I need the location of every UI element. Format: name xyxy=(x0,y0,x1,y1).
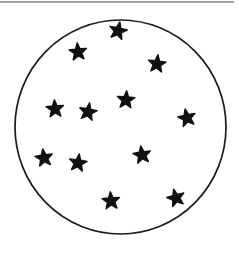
figure-svg xyxy=(0,0,239,253)
circle-outline xyxy=(15,20,226,234)
stars-in-circle-figure xyxy=(0,0,239,253)
top-rule xyxy=(0,1,234,3)
